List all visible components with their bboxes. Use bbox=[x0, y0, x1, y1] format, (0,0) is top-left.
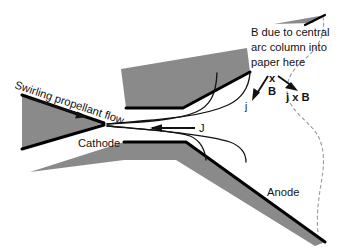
magnetic-field-label: B bbox=[268, 85, 276, 97]
current-density-label: j bbox=[244, 101, 247, 112]
lorentz-force-label: j x B bbox=[285, 91, 310, 103]
anode-label: Anode bbox=[267, 186, 299, 198]
current-label: J bbox=[199, 122, 205, 134]
into-page-marker-icon: x bbox=[269, 72, 276, 84]
annotation-line-1: B due to central bbox=[251, 26, 329, 38]
annotation-line-2: arc column into bbox=[251, 41, 327, 53]
diagram-canvas: J Swirling propellant flow Cathode Anode… bbox=[0, 0, 349, 250]
cathode-label: Cathode bbox=[78, 137, 120, 149]
annotation-line-3: paper here bbox=[251, 56, 305, 68]
mpd-thruster-diagram: J Swirling propellant flow Cathode Anode… bbox=[0, 0, 349, 250]
